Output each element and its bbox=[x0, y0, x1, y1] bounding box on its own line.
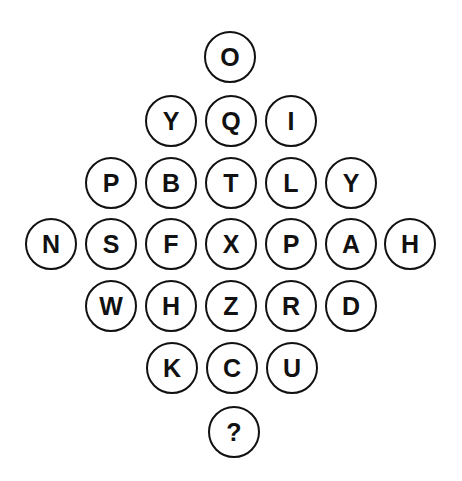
circle-h-1: H bbox=[384, 218, 436, 270]
circle-i: I bbox=[265, 95, 317, 147]
circle-t: T bbox=[205, 157, 257, 209]
cell-letter: W bbox=[99, 294, 123, 319]
circle-d: D bbox=[325, 280, 377, 332]
cell-letter: ? bbox=[226, 420, 241, 445]
cell-letter: T bbox=[223, 171, 238, 196]
cell-letter: B bbox=[162, 171, 180, 196]
cell-letter: H bbox=[162, 294, 180, 319]
circle-p-2: P bbox=[265, 218, 317, 270]
letter-diamond-puzzle: O Y Q I P B T L Y N S F X P A H W H Z R … bbox=[0, 0, 462, 481]
cell-letter: S bbox=[103, 232, 120, 257]
cell-letter: D bbox=[342, 294, 360, 319]
circle-k: K bbox=[146, 342, 198, 394]
cell-letter: O bbox=[220, 45, 239, 70]
circle-b: B bbox=[145, 157, 197, 209]
circle-r: R bbox=[265, 280, 317, 332]
circle-s: S bbox=[85, 218, 137, 270]
cell-letter: Y bbox=[343, 171, 360, 196]
cell-letter: U bbox=[283, 356, 301, 381]
cell-letter: A bbox=[342, 232, 360, 257]
circle-w: W bbox=[85, 280, 137, 332]
cell-letter: I bbox=[288, 109, 295, 134]
circle-h-2: H bbox=[145, 280, 197, 332]
cell-letter: F bbox=[163, 232, 178, 257]
cell-letter: P bbox=[103, 171, 120, 196]
cell-letter: P bbox=[283, 232, 300, 257]
circle-u: U bbox=[266, 342, 318, 394]
cell-letter: X bbox=[223, 232, 240, 257]
circle-question-mark: ? bbox=[208, 406, 260, 458]
circle-l: L bbox=[265, 157, 317, 209]
circle-p-1: P bbox=[85, 157, 137, 209]
cell-letter: Y bbox=[163, 109, 180, 134]
circle-n: N bbox=[25, 218, 77, 270]
cell-letter: C bbox=[223, 356, 241, 381]
cell-letter: L bbox=[283, 171, 298, 196]
circle-y-1: Y bbox=[145, 95, 197, 147]
circle-c: C bbox=[206, 342, 258, 394]
circle-z: Z bbox=[205, 280, 257, 332]
cell-letter: R bbox=[282, 294, 300, 319]
circle-y-2: Y bbox=[325, 157, 377, 209]
cell-letter: Q bbox=[221, 109, 240, 134]
circle-a: A bbox=[325, 218, 377, 270]
cell-letter: H bbox=[401, 232, 419, 257]
cell-letter: Z bbox=[223, 294, 238, 319]
circle-x: X bbox=[205, 218, 257, 270]
cell-letter: K bbox=[163, 356, 181, 381]
circle-q: Q bbox=[205, 95, 257, 147]
cell-letter: N bbox=[42, 232, 60, 257]
circle-f: F bbox=[145, 218, 197, 270]
circle-o: O bbox=[204, 31, 256, 83]
